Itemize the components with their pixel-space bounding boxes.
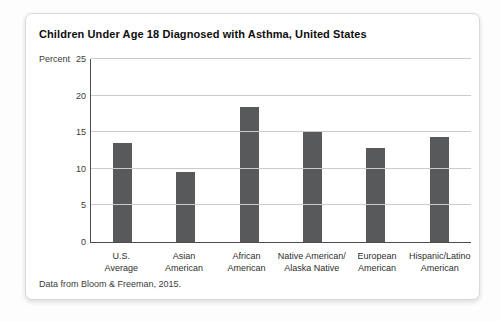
y-tick-label-25: 25 <box>76 54 86 64</box>
x-axis-label-line: U.S. <box>90 250 153 262</box>
y-tick-label-0: 0 <box>81 237 86 247</box>
y-tick-label-5: 5 <box>81 200 86 210</box>
x-axis-label-line: African <box>215 250 278 262</box>
chart-card: Children Under Age 18 Diagnosed with Ast… <box>25 13 480 300</box>
x-axis-label-line: American <box>153 262 216 274</box>
x-axis-label: EuropeanAmerican <box>346 250 409 274</box>
x-axis-label-line: Alaska Native <box>278 262 346 274</box>
x-axis-label: Hispanic/LatinoAmerican <box>408 250 471 274</box>
bar-hispanic-latino-american <box>430 137 449 242</box>
x-axis-label: Native American/Alaska Native <box>278 250 346 274</box>
x-axis-label-line: European <box>346 250 409 262</box>
y-tick-label-20: 20 <box>76 91 86 101</box>
x-axis-label-line: Hispanic/Latino <box>408 250 471 262</box>
gridline-25 <box>91 58 471 59</box>
x-axis-label-line: Asian <box>153 250 216 262</box>
bar-native-american-alaska-native <box>303 131 322 242</box>
bar-u-s-average <box>113 143 132 242</box>
bar-column <box>408 59 471 242</box>
y-axis-unit-label: Percent <box>39 54 70 64</box>
bar-asian-american <box>176 172 195 242</box>
bar-column <box>218 59 281 242</box>
x-axis-label-line: Native American/ <box>278 250 346 262</box>
x-axis-label: AfricanAmerican <box>215 250 278 274</box>
bar-african-american <box>240 107 259 242</box>
x-axis-label: AsianAmerican <box>153 250 216 274</box>
bar-column <box>281 59 344 242</box>
bars-row <box>91 59 471 242</box>
y-tick-label-15: 15 <box>76 127 86 137</box>
gridline-20 <box>91 95 471 96</box>
plot-area: 0510152025 <box>90 59 471 243</box>
gridline-15 <box>91 131 471 132</box>
x-axis-label: U.S.Average <box>90 250 153 274</box>
x-axis-labels: U.S.AverageAsianAmericanAfricanAmericanN… <box>90 250 471 274</box>
x-axis-label-line: American <box>408 262 471 274</box>
x-axis-label-line: Average <box>90 262 153 274</box>
x-axis-label-line: American <box>215 262 278 274</box>
bar-column <box>154 59 217 242</box>
x-axis-label-line: American <box>346 262 409 274</box>
gridline-10 <box>91 168 471 169</box>
gridline-5 <box>91 204 471 205</box>
y-tick-label-10: 10 <box>76 164 86 174</box>
chart-title: Children Under Age 18 Diagnosed with Ast… <box>39 28 367 40</box>
bar-european-american <box>366 148 385 242</box>
bar-column <box>344 59 407 242</box>
bar-column <box>91 59 154 242</box>
source-note: Data from Bloom & Freeman, 2015. <box>39 279 181 289</box>
